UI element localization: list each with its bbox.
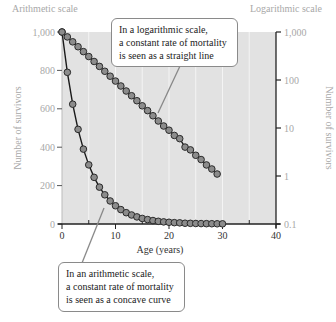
data-point [118, 83, 125, 90]
left-axis-title: Arithmetic scale [12, 3, 78, 14]
data-point [198, 156, 205, 163]
x-tick-label: 40 [271, 230, 281, 241]
data-point [91, 58, 98, 65]
data-point [150, 112, 157, 119]
data-point [166, 127, 173, 134]
left-tick-label: 1,000 [33, 27, 56, 38]
x-tick-label: 0 [60, 230, 65, 241]
data-point [214, 171, 221, 178]
right-axis: 0.11101001,000 [276, 27, 307, 230]
data-point [96, 184, 103, 191]
data-point [85, 162, 92, 169]
left-tick-label: 800 [40, 65, 55, 76]
data-point [85, 53, 92, 60]
right-tick-label: 100 [284, 75, 299, 86]
right-axis-label: Number of survivors [324, 86, 335, 169]
x-tick-label: 30 [218, 230, 228, 241]
data-point [64, 69, 71, 76]
data-point [155, 118, 162, 125]
data-point [107, 73, 114, 80]
callout-line: a constant rate of mortality [119, 36, 230, 49]
data-point [69, 39, 76, 46]
data-point [134, 97, 141, 104]
callout-line: is seen as a concave curve [66, 293, 177, 306]
right-tick-label: 0.1 [284, 219, 297, 230]
data-point [96, 63, 103, 70]
x-tick-label: 20 [164, 230, 174, 241]
data-point [176, 135, 183, 142]
data-point [64, 34, 71, 41]
data-point [139, 103, 146, 110]
x-axis-label: Age (years) [137, 244, 184, 256]
callout-log-scale: In a logarithmic scale, a constant rate … [111, 18, 238, 67]
left-tick-label: 600 [40, 103, 55, 114]
right-axis-title: Logarithmic scale [250, 3, 322, 14]
callout-line: In a logarithmic scale, [119, 23, 230, 36]
data-point [112, 78, 119, 85]
data-point [123, 88, 130, 95]
data-point [91, 174, 98, 181]
right-tick-label: 1 [284, 171, 289, 182]
callout-line: In an arithmetic scale, [66, 267, 177, 280]
data-point [80, 48, 87, 55]
data-point [80, 146, 87, 153]
data-point [75, 43, 82, 50]
data-point [187, 147, 194, 154]
left-tick-label: 200 [40, 180, 55, 191]
data-point [107, 198, 114, 205]
data-point [219, 221, 226, 228]
right-tick-label: 10 [284, 123, 294, 134]
right-tick-label: 1,000 [284, 27, 307, 38]
callout-line: is seen as a straight line [119, 49, 230, 62]
left-tick-label: 0 [50, 219, 55, 230]
data-point [128, 92, 135, 99]
left-tick-label: 400 [40, 142, 55, 153]
data-point [75, 126, 82, 133]
left-axis-label: Number of survivors [12, 86, 23, 169]
data-point [144, 107, 151, 114]
data-point [209, 166, 216, 173]
callout-line: a constant rate of mortality [66, 280, 177, 293]
callout-arithmetic-scale: In an arithmetic scale, a constant rate … [58, 262, 185, 312]
data-point [69, 101, 76, 108]
data-point [59, 29, 66, 36]
left-axis: 02004006008001,000 [33, 27, 63, 230]
x-tick-label: 10 [111, 230, 121, 241]
data-point [102, 68, 109, 75]
data-point [102, 192, 109, 199]
